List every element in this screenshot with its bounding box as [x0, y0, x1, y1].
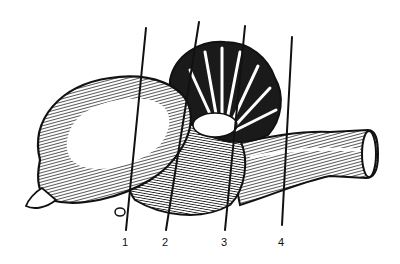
label-3: 3 — [221, 237, 227, 248]
pointer-line-4 — [282, 37, 292, 225]
label-2: 2 — [162, 237, 168, 248]
label-1: 1 — [122, 237, 128, 248]
brain-diagram — [0, 0, 400, 264]
nerve-stub — [115, 208, 125, 216]
label-4: 4 — [278, 237, 284, 248]
